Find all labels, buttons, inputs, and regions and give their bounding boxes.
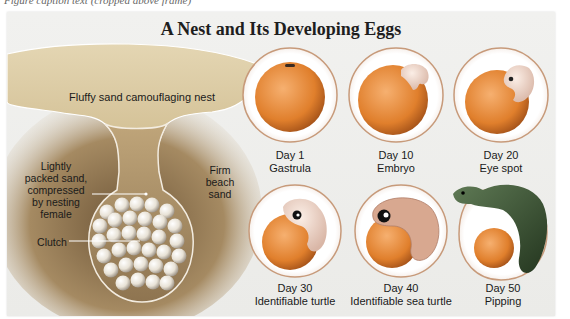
egg-day-50 [453, 185, 547, 280]
caption-day-10: Day 10 Embryo [336, 149, 456, 175]
egg-day-1 [243, 48, 337, 142]
caption-day-50: Day 50 Pipping [443, 282, 555, 308]
figure-panel: A Nest and Its Developing Eggs [7, 12, 555, 316]
caption-day-20: Day 20 Eye spot [441, 149, 555, 175]
egg-day-30 [249, 185, 341, 277]
egg-day-40 [355, 185, 447, 277]
label-fluffy-sand: Fluffy sand camouflaging nest [67, 91, 217, 103]
egg-day-20 [454, 48, 548, 142]
caption-day-30: Day 30 Identifiable turtle [235, 282, 355, 308]
cropped-caption: Figure caption text (cropped above frame… [4, 0, 191, 6]
label-packed-sand: Lightly packed sand, compressed by nesti… [21, 160, 91, 220]
egg-day-10 [349, 48, 443, 142]
label-clutch: Clutch [35, 236, 69, 248]
caption-day-1: Day 1 Gastrula [230, 149, 350, 175]
